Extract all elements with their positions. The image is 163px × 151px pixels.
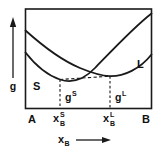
liquid-curve-path bbox=[26, 31, 152, 77]
endpoint-b-label: B bbox=[142, 113, 150, 125]
x-liquid-annotation: x B L bbox=[103, 111, 115, 127]
solid-curve-label: S bbox=[33, 80, 40, 92]
figure-canvas: g x B S L g S g L A B bbox=[0, 0, 163, 151]
right-arrow-icon bbox=[102, 137, 111, 143]
plot-frame bbox=[26, 9, 152, 109]
x-liquid-superscript: L bbox=[110, 111, 115, 118]
x-solid-base: x bbox=[53, 112, 60, 124]
liquid-curve bbox=[26, 31, 152, 77]
g-liquid-annotation: g L bbox=[115, 90, 127, 103]
x-solid-annotation: x B S bbox=[53, 111, 65, 127]
up-arrow-icon bbox=[10, 17, 16, 27]
x-solid-subscript: B bbox=[60, 120, 65, 127]
y-axis-label: g bbox=[10, 80, 16, 92]
g-solid-annotation: g S bbox=[65, 90, 77, 103]
x-axis-label-sub: B bbox=[64, 140, 69, 147]
g-solid-base: g bbox=[65, 91, 71, 103]
g-liquid-superscript: L bbox=[122, 90, 127, 97]
x-solid-superscript: S bbox=[60, 111, 65, 118]
x-axis-arrow-group: x B bbox=[58, 133, 111, 147]
frame-rect bbox=[26, 9, 152, 109]
x-liquid-subscript: B bbox=[110, 120, 115, 127]
x-liquid-base: x bbox=[103, 112, 110, 124]
y-axis-arrow-group: g bbox=[10, 17, 16, 92]
g-liquid-base: g bbox=[115, 91, 121, 103]
endpoint-a-label: A bbox=[28, 113, 36, 125]
g-solid-superscript: S bbox=[72, 90, 77, 97]
endpoint-a: A bbox=[28, 113, 36, 125]
gibbs-energy-composition-figure: g x B S L g S g L A B bbox=[0, 0, 163, 151]
liquid-curve-label: L bbox=[137, 58, 144, 70]
endpoint-b: B bbox=[142, 113, 150, 125]
